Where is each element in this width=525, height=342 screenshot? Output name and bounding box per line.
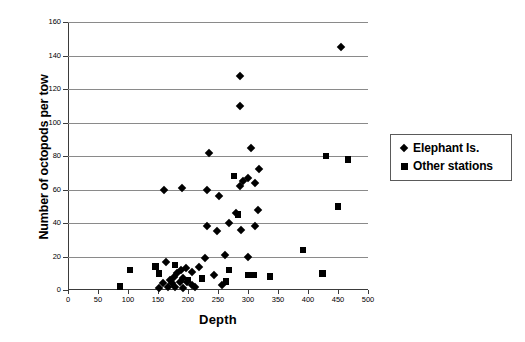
data-point-square: [127, 267, 134, 274]
y-tick: [63, 89, 68, 90]
square-marker-icon: [397, 163, 411, 170]
scatter-chart: Number of octopods per tow Depth 0204060…: [0, 0, 525, 342]
x-tick-label: 500: [362, 296, 375, 304]
y-tick: [63, 56, 68, 57]
x-tick: [68, 290, 69, 294]
legend-item: Elephant Is.: [397, 139, 506, 157]
x-tick: [218, 290, 219, 294]
legend-label: Elephant Is.: [411, 141, 479, 155]
data-point-diamond: [201, 254, 209, 262]
data-point-diamond: [221, 251, 229, 259]
chart-legend: Elephant Is. Other stations: [390, 134, 512, 181]
x-tick: [368, 290, 369, 294]
y-tick-label: 20: [35, 253, 61, 261]
data-point-square: [231, 173, 238, 180]
plot-area: 020406080100120140160 050100150200250300…: [68, 22, 368, 290]
y-tick-label: 0: [35, 286, 61, 294]
data-point-square: [267, 273, 274, 280]
x-tick: [188, 290, 189, 294]
x-tick: [278, 290, 279, 294]
y-tick: [63, 123, 68, 124]
data-point-diamond: [225, 219, 233, 227]
data-point-square: [235, 211, 242, 218]
legend-item: Other stations: [397, 157, 506, 175]
diamond-marker-icon: [397, 145, 411, 151]
data-point-square: [199, 275, 206, 282]
y-tick-label: 40: [35, 219, 61, 227]
data-point-diamond: [162, 257, 170, 265]
gridline: [68, 56, 368, 57]
gridline: [68, 257, 368, 258]
y-tick-label: 100: [35, 119, 61, 127]
gridline: [68, 22, 368, 23]
x-tick-label: 250: [212, 296, 225, 304]
x-tick: [128, 290, 129, 294]
x-tick-label: 450: [332, 296, 345, 304]
x-tick-label: 150: [152, 296, 165, 304]
data-point-diamond: [237, 225, 245, 233]
data-point-square: [251, 272, 258, 279]
x-tick-label: 400: [302, 296, 315, 304]
x-tick-label: 300: [242, 296, 255, 304]
data-point-square: [345, 156, 352, 163]
y-tick-label: 60: [35, 186, 61, 194]
data-point-square: [172, 262, 179, 269]
x-tick: [248, 290, 249, 294]
y-tick-label: 160: [35, 18, 61, 26]
gridline: [68, 223, 368, 224]
x-tick-label: 100: [122, 296, 135, 304]
data-point-diamond: [236, 102, 244, 110]
data-point-diamond: [215, 192, 223, 200]
data-point-diamond: [337, 43, 345, 51]
data-point-diamond: [253, 205, 261, 213]
x-tick: [308, 290, 309, 294]
x-axis-title: Depth: [68, 312, 368, 327]
x-tick-label: 0: [66, 296, 70, 304]
data-point-square: [156, 270, 163, 277]
data-point-diamond: [213, 227, 221, 235]
data-point-square: [226, 267, 233, 274]
data-point-diamond: [251, 179, 259, 187]
y-tick: [63, 257, 68, 258]
y-tick-label: 80: [35, 152, 61, 160]
x-tick: [98, 290, 99, 294]
y-tick-label: 120: [35, 85, 61, 93]
y-tick: [63, 190, 68, 191]
x-tick: [338, 290, 339, 294]
data-point-diamond: [178, 184, 186, 192]
data-point-square: [335, 203, 342, 210]
data-point-diamond: [210, 271, 218, 279]
x-tick-label: 200: [182, 296, 195, 304]
legend-label: Other stations: [411, 159, 493, 173]
data-point-square: [152, 263, 159, 270]
data-point-square: [117, 283, 124, 290]
data-point-diamond: [203, 185, 211, 193]
y-tick: [63, 22, 68, 23]
data-point-diamond: [236, 71, 244, 79]
x-tick-label: 50: [94, 296, 102, 304]
gridline: [68, 190, 368, 191]
data-point-square: [319, 270, 326, 277]
gridline: [68, 123, 368, 124]
y-tick: [63, 223, 68, 224]
gridline: [68, 89, 368, 90]
data-point-square: [223, 278, 230, 285]
y-tick-label: 140: [35, 52, 61, 60]
data-point-diamond: [255, 165, 263, 173]
data-point-square: [323, 153, 330, 160]
data-point-diamond: [244, 252, 252, 260]
data-point-diamond: [160, 185, 168, 193]
data-point-diamond: [195, 262, 203, 270]
data-point-square: [185, 277, 192, 284]
x-tick-label: 350: [272, 296, 285, 304]
y-tick: [63, 156, 68, 157]
data-point-square: [300, 247, 307, 254]
data-point-diamond: [247, 143, 255, 151]
